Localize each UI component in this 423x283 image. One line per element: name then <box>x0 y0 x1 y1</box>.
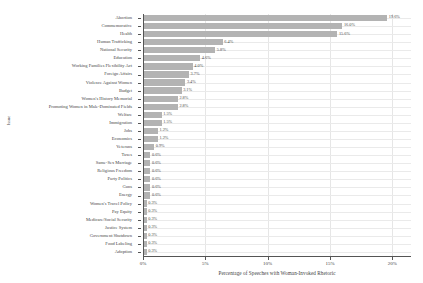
y-tick-mark <box>138 99 141 100</box>
bar-value-label: 1.2% <box>158 134 168 142</box>
row-guideline <box>143 212 411 213</box>
bar-row: 0.6% <box>143 191 411 199</box>
row-guideline <box>143 228 411 229</box>
bar-value-label: 0.3% <box>147 247 157 255</box>
y-tick-label: Health <box>0 30 132 38</box>
y-tick-mark <box>138 131 141 132</box>
y-axis-tick-labels: AbortionCommemorativeHealthHuman Traffic… <box>0 14 138 256</box>
row-guideline <box>143 220 411 221</box>
bar <box>143 104 178 110</box>
chart-figure: Issue AbortionCommemorativeHealthHuman T… <box>0 0 423 283</box>
y-tick-label: Same-Sex Marriage <box>0 159 132 167</box>
bar <box>143 112 162 118</box>
bar-row: 0.3% <box>143 248 411 256</box>
y-tick-label: Immigration <box>0 119 132 127</box>
bar-value-label: 3.7% <box>189 70 199 78</box>
bar-row: 2.8% <box>143 103 411 111</box>
y-tick-mark <box>138 252 141 253</box>
x-axis-line <box>143 256 411 257</box>
y-tick-mark <box>138 187 141 188</box>
bar-value-label: 0.6% <box>150 151 160 159</box>
y-tick-mark <box>138 163 141 164</box>
y-tick-label: Medicare/Social Security <box>0 216 132 224</box>
y-tick-mark <box>138 115 141 116</box>
bar <box>143 47 215 53</box>
y-tick-label: Women's History Memorial <box>0 95 132 103</box>
bar-value-label: 1.5% <box>162 110 172 118</box>
bar <box>143 136 158 142</box>
x-tick-mark <box>205 257 206 260</box>
bar-value-label: 0.6% <box>150 167 160 175</box>
bar-value-label: 2.8% <box>178 102 188 110</box>
bar <box>143 96 178 102</box>
y-tick-label: Human Trafficking <box>0 38 132 46</box>
bar-value-label: 5.8% <box>215 46 225 54</box>
y-tick-mark <box>138 18 141 19</box>
bar <box>143 71 189 77</box>
bar <box>143 192 150 198</box>
y-tick-mark <box>138 196 141 197</box>
y-tick-mark <box>138 91 141 92</box>
bar-value-label: 0.3% <box>147 215 157 223</box>
y-tick-mark <box>138 107 141 108</box>
bar-value-label: 3.4% <box>185 78 195 86</box>
bar-value-label: 0.3% <box>147 231 157 239</box>
bar-row: 0.3% <box>143 200 411 208</box>
y-tick-label: Promoting Women in Male-Dominated Fields <box>0 103 132 111</box>
y-tick-label: Pay Equity <box>0 208 132 216</box>
row-guideline <box>143 171 411 172</box>
y-tick-mark <box>138 147 141 148</box>
y-tick-label: Veterans <box>0 143 132 151</box>
bar <box>143 128 158 134</box>
x-tick-label: 15% <box>325 261 334 266</box>
y-tick-label: Jobs <box>0 127 132 135</box>
row-guideline <box>143 187 411 188</box>
bar-row: 0.6% <box>143 151 411 159</box>
y-tick-label: Education <box>0 54 132 62</box>
bar-value-label: 4.6% <box>200 54 210 62</box>
bar <box>143 87 182 93</box>
y-axis-line <box>143 14 144 256</box>
y-tick-label: Abortion <box>0 14 132 22</box>
y-tick-label: Working Families Flexibility Act <box>0 62 132 70</box>
y-tick-mark <box>138 26 141 27</box>
bar-value-label: 0.6% <box>150 159 160 167</box>
y-tick-mark <box>138 66 141 67</box>
bar-row: 1.5% <box>143 119 411 127</box>
y-tick-label: Violence Against Women <box>0 79 132 87</box>
bar <box>143 152 150 158</box>
x-tick-mark <box>392 257 393 260</box>
bar-row: 5.8% <box>143 46 411 54</box>
bar-value-label: 16.0% <box>342 21 355 29</box>
row-guideline <box>143 163 411 164</box>
bar <box>143 160 150 166</box>
bar-value-label: 2.8% <box>178 94 188 102</box>
bar <box>143 144 154 150</box>
bar-row: 15.6% <box>143 30 411 38</box>
bar <box>143 39 223 45</box>
row-guideline <box>143 244 411 245</box>
bar-value-label: 19.6% <box>387 13 400 21</box>
bar <box>143 168 150 174</box>
y-tick-label: Economics <box>0 135 132 143</box>
x-axis-title: Percentage of Speeches with Woman-Invoke… <box>143 270 411 276</box>
row-guideline <box>143 115 411 116</box>
bar-row: 6.4% <box>143 38 411 46</box>
y-tick-mark <box>138 244 141 245</box>
y-tick-mark <box>138 123 141 124</box>
bar-row: 1.5% <box>143 111 411 119</box>
row-guideline <box>143 204 411 205</box>
bar-value-label: 0.3% <box>147 207 157 215</box>
y-tick-label: Religious Freedom <box>0 167 132 175</box>
bar <box>143 63 193 69</box>
x-tick-mark <box>330 257 331 260</box>
bar-row: 0.6% <box>143 183 411 191</box>
y-tick-mark <box>138 58 141 59</box>
y-tick-mark <box>138 179 141 180</box>
y-tick-label: Budget <box>0 87 132 95</box>
bar-value-label: 0.6% <box>150 191 160 199</box>
bar-row: 0.3% <box>143 240 411 248</box>
bar-row: 0.3% <box>143 216 411 224</box>
y-tick-label: Welfare <box>0 111 132 119</box>
row-guideline <box>143 139 411 140</box>
